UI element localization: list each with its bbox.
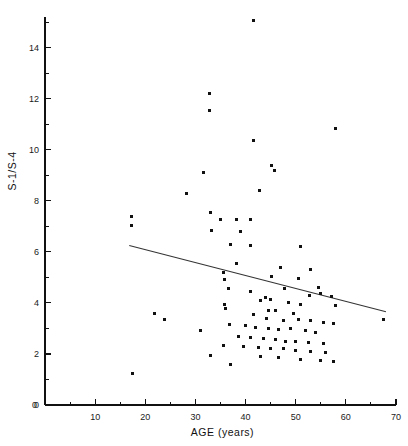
data-point [262, 337, 265, 340]
data-point [267, 309, 270, 312]
data-point [202, 171, 205, 174]
data-point [294, 340, 297, 343]
data-point [259, 299, 262, 302]
data-point [289, 327, 292, 330]
data-point [209, 211, 212, 214]
x-tick-label: 40 [241, 412, 251, 422]
data-point [249, 290, 252, 293]
data-point [294, 349, 297, 352]
x-tick-label: 50 [291, 412, 301, 422]
data-point [252, 313, 255, 316]
y-tick-label: 6 [34, 247, 39, 257]
x-tick-label: 60 [341, 412, 351, 422]
data-point [264, 296, 267, 299]
y-tick-label: 4 [34, 298, 39, 308]
data-point [334, 127, 337, 130]
data-point [317, 286, 320, 289]
regression-line [129, 245, 386, 311]
data-point [279, 266, 282, 269]
data-point [252, 139, 255, 142]
x-tick-label: 30 [190, 412, 200, 422]
data-point [227, 287, 230, 290]
data-point [224, 307, 227, 310]
data-point [309, 268, 312, 271]
x-tick-label: 10 [90, 412, 100, 422]
data-point [257, 346, 260, 349]
data-point [244, 324, 247, 327]
data-point [269, 347, 272, 350]
data-point [304, 329, 307, 332]
data-point [237, 335, 240, 338]
y-axis-title: S-1/S-4 [6, 151, 18, 190]
y-tick-label: 2 [34, 349, 39, 359]
data-point [332, 322, 335, 325]
x-tick-label: 0 [32, 400, 37, 410]
data-point [309, 319, 312, 322]
data-point [249, 218, 252, 221]
y-tick-label: 14 [29, 43, 39, 53]
y-tick-label: 8 [34, 196, 39, 206]
data-point [319, 359, 322, 362]
data-point [235, 218, 238, 221]
data-point [153, 312, 156, 315]
data-point [208, 92, 211, 95]
data-point [163, 318, 166, 321]
data-point [210, 229, 213, 232]
data-point [209, 354, 212, 357]
data-point [277, 328, 280, 331]
data-point [299, 358, 302, 361]
data-point [267, 327, 270, 330]
x-axis-title: AGE (years) [191, 426, 254, 438]
data-point-group [130, 19, 385, 374]
data-point [273, 169, 276, 172]
data-point [254, 326, 257, 329]
data-point [228, 323, 231, 326]
data-point [282, 347, 285, 350]
data-point [297, 277, 300, 280]
data-point [307, 341, 310, 344]
data-point [334, 304, 337, 307]
data-point [284, 340, 287, 343]
data-point [265, 317, 268, 320]
data-point [270, 164, 273, 167]
data-point [287, 301, 290, 304]
data-point [282, 319, 285, 322]
data-point [299, 303, 302, 306]
data-point [283, 287, 286, 290]
data-point [274, 309, 277, 312]
data-point [309, 350, 312, 353]
data-point [322, 342, 325, 345]
data-point [229, 243, 232, 246]
data-point [330, 295, 333, 298]
data-point [308, 294, 311, 297]
data-point [249, 336, 252, 339]
data-point [239, 230, 242, 233]
data-point [324, 351, 327, 354]
data-point [229, 363, 232, 366]
data-point [332, 360, 335, 363]
x-tick-label: 20 [140, 412, 150, 422]
data-point [185, 192, 188, 195]
data-point [322, 321, 325, 324]
data-point [382, 318, 385, 321]
data-point [199, 329, 202, 332]
data-point [249, 244, 252, 247]
scatter-plot-figure: 02468101214010203040506070AGE (years)S-1… [0, 0, 408, 446]
data-point [270, 275, 273, 278]
data-point [222, 344, 225, 347]
data-point [269, 298, 272, 301]
data-point [208, 109, 211, 112]
data-point [259, 355, 262, 358]
data-point [274, 338, 277, 341]
data-point [314, 331, 317, 334]
data-point [252, 19, 255, 22]
x-tick-label: 70 [391, 412, 401, 422]
data-point [319, 292, 322, 295]
data-point [258, 189, 261, 192]
data-point [277, 356, 280, 359]
data-point [299, 245, 302, 248]
y-tick-label: 10 [29, 145, 39, 155]
data-point [242, 345, 245, 348]
data-point [222, 271, 225, 274]
data-point [223, 303, 226, 306]
